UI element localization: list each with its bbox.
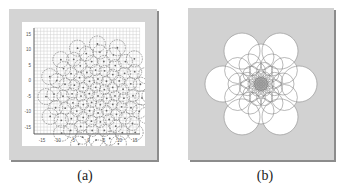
caption-a: (a) <box>65 168 105 184</box>
y-tick-label: -10 <box>24 109 31 114</box>
x-tick-label: 10 <box>117 138 123 143</box>
dense-center <box>255 78 267 90</box>
y-tick-label: -5 <box>27 94 31 99</box>
figure-panel-a: -15-10-5051015151050-5-10-15 <box>9 9 157 160</box>
y-tick-label: -15 <box>24 125 31 130</box>
y-tick-label: 5 <box>28 63 31 68</box>
circle-packing-plot: -15-10-5051015151050-5-10-15 <box>22 22 145 146</box>
caption-b: (b) <box>245 168 285 184</box>
y-tick-label: 15 <box>26 32 32 37</box>
flower-circle-pattern <box>188 8 334 160</box>
x-tick-label: -15 <box>39 138 46 143</box>
y-tick-label: 0 <box>28 78 31 83</box>
plot-area-a: -15-10-5051015151050-5-10-15 <box>22 22 145 146</box>
figure-panel-b <box>188 8 334 160</box>
dashed-circles <box>38 36 145 146</box>
y-tick-label: 10 <box>26 47 32 52</box>
